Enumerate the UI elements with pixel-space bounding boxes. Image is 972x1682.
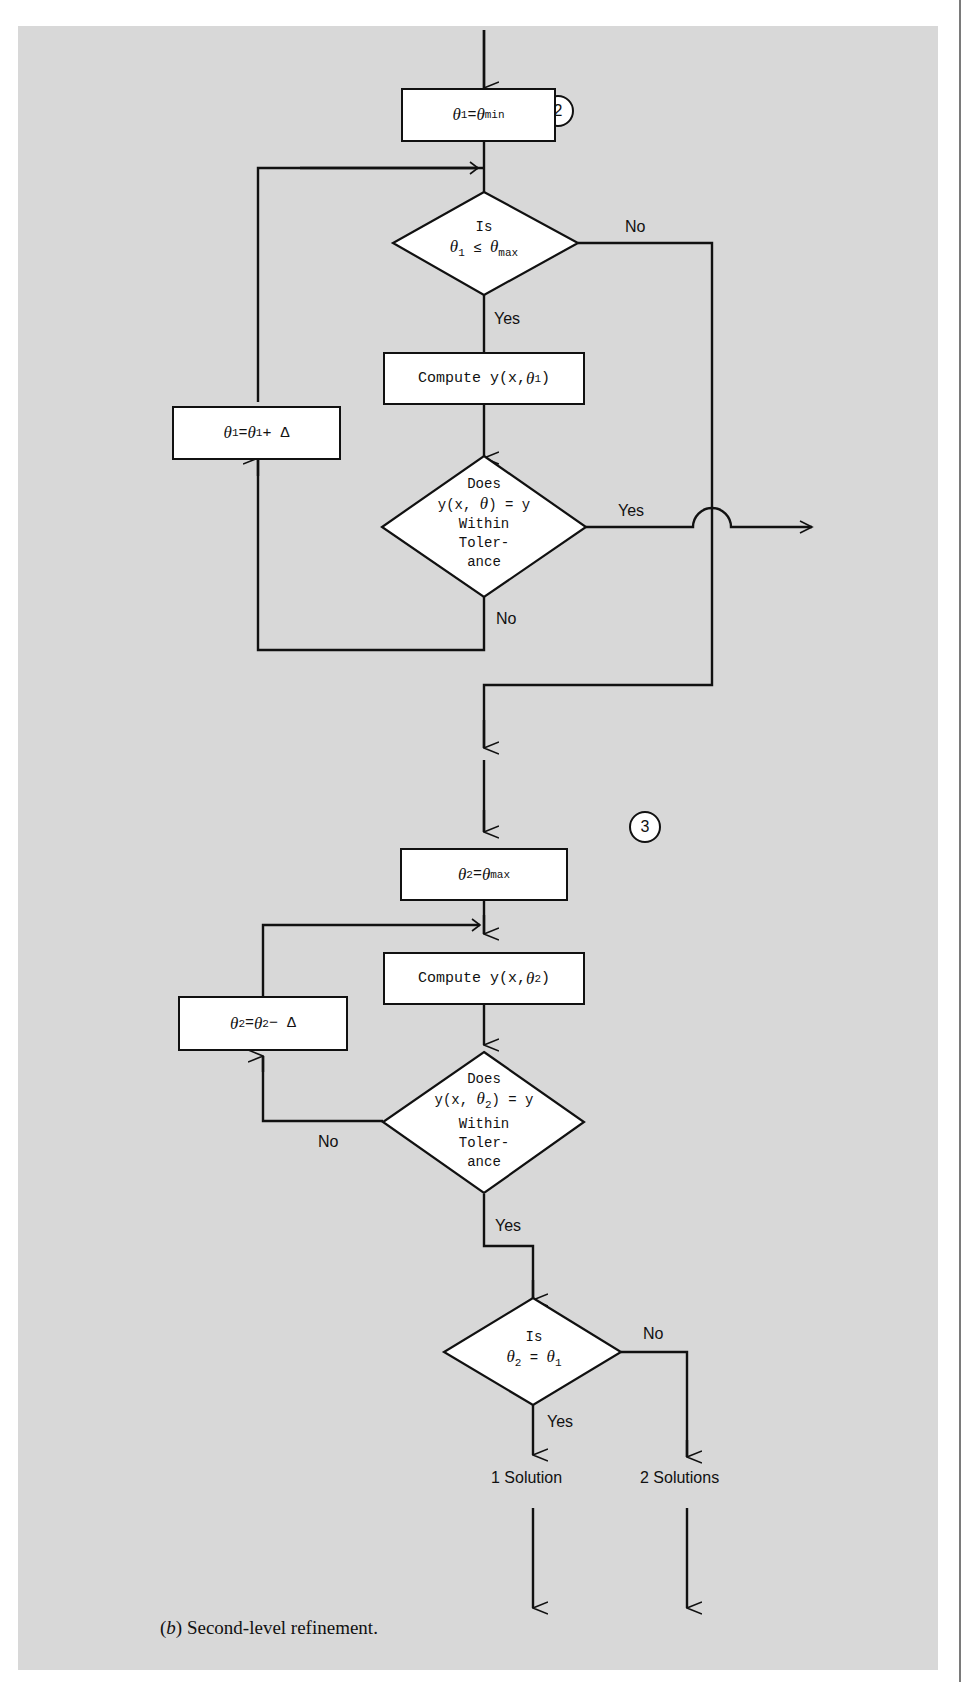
decision1-yes-label: Yes <box>494 310 520 328</box>
decision2-yes-label: Yes <box>618 502 644 520</box>
increment-theta1-box: θ1 = θ1 + Δ <box>172 406 341 460</box>
init-theta1-box: θ1 = θmin <box>401 88 556 142</box>
init-theta2-box: θ2 = θmax <box>400 848 568 901</box>
decision3-no-label: No <box>318 1133 338 1151</box>
outcome-two-solutions: 2 Solutions <box>640 1469 719 1487</box>
decision2-label: Does y(x, θ) = y Within Toler- ance <box>414 475 554 572</box>
decision2-no-label: No <box>496 610 516 628</box>
decision4-label: Is θ2 = θ1 <box>470 1328 598 1373</box>
decision1-label: Is θ1 ≤ θmax <box>420 218 548 263</box>
decision3-label: Does y(x, θ2) = y Within Toler- ance <box>414 1070 554 1172</box>
connector-3: 3 <box>629 811 661 843</box>
compute-y-theta1-box: Compute y(x, θ1) <box>383 352 585 405</box>
decision1-no-label: No <box>625 218 645 236</box>
decision4-no-label: No <box>643 1325 663 1343</box>
decrement-theta2-box: θ2 = θ2 − Δ <box>178 996 348 1051</box>
figure-caption: (b) Second-level refinement. <box>160 1617 378 1639</box>
decision4-yes-label: Yes <box>547 1413 573 1431</box>
decision3-yes-label: Yes <box>495 1217 521 1235</box>
outcome-one-solution: 1 Solution <box>491 1469 562 1487</box>
compute-y-theta2-box: Compute y(x, θ2) <box>383 952 585 1005</box>
